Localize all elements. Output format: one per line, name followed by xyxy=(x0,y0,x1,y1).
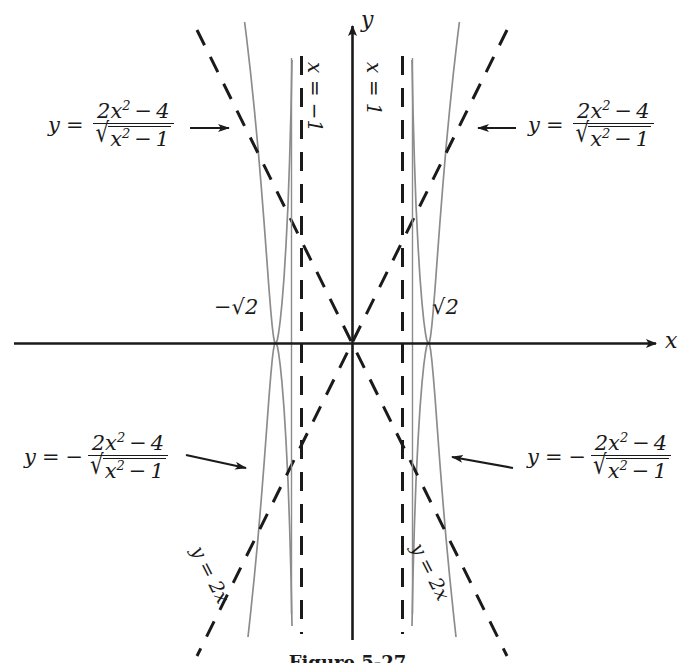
numerator-operator: − xyxy=(611,99,637,123)
denominator-term-a: x xyxy=(110,127,122,151)
denominator-operator: − xyxy=(130,127,156,151)
equation-fraction: 2x2−4 √x2−1 xyxy=(86,432,170,482)
radical-sign-icon: √ xyxy=(90,452,104,480)
fraction-denominator: √x2−1 xyxy=(589,456,673,482)
numerator-exponent: 2 xyxy=(620,430,628,445)
denominator-term-b: 1 xyxy=(156,127,169,151)
numerator-operator: − xyxy=(131,99,157,123)
radical-sign-icon: √ xyxy=(95,120,109,148)
curve-lower-left xyxy=(248,343,292,637)
equation-leading-minus: − xyxy=(568,446,587,468)
sqrt-group: √x2−1 xyxy=(593,458,669,482)
sqrt-group: √x2−1 xyxy=(90,458,166,482)
equation-upper-right: y = 2x2−4 √x2−1 xyxy=(528,100,657,150)
equation-lhs: y xyxy=(24,446,36,468)
equation-lower-right: y = − 2x2−4 √x2−1 xyxy=(527,432,675,482)
pointer-lower-left xyxy=(186,455,246,468)
equation-fraction: 2x2−4 √x2−1 xyxy=(589,432,673,482)
radicand: x2−1 xyxy=(606,458,669,482)
radicand: x2−1 xyxy=(108,126,171,150)
tick-label-pos-sqrt2: √2 xyxy=(432,296,459,318)
numerator-operator: − xyxy=(628,431,654,455)
equation-equals: = xyxy=(539,446,569,468)
denominator-term-a: x xyxy=(590,127,602,151)
numerator-exponent: 2 xyxy=(122,98,130,113)
label-asymptote-x-pos1: x = 1 xyxy=(363,62,384,115)
denominator-exponent: 2 xyxy=(122,126,130,141)
radical-sign-icon: √ xyxy=(575,120,589,148)
pointer-lower-right xyxy=(452,457,513,468)
fraction-denominator: √x2−1 xyxy=(91,124,175,150)
numerator-term-b: 4 xyxy=(151,431,164,455)
equation-leading-minus: − xyxy=(65,446,84,468)
equation-equals: = xyxy=(60,114,90,136)
denominator-term-b: 1 xyxy=(653,459,666,483)
fraction-denominator: √x2−1 xyxy=(86,456,170,482)
numerator-operator: − xyxy=(125,431,151,455)
denominator-term-b: 1 xyxy=(150,459,163,483)
x-axis-label: x xyxy=(665,329,677,352)
radicand: x2−1 xyxy=(588,126,651,150)
numerator-exponent: 2 xyxy=(602,98,610,113)
label-asymptote-x-neg1: x = −1 xyxy=(304,62,325,132)
numerator-term-b: 4 xyxy=(156,99,169,123)
sqrt-group: √x2−1 xyxy=(95,126,171,150)
denominator-term-a: x xyxy=(105,459,117,483)
y-axis-label: y xyxy=(361,8,373,31)
denominator-exponent: 2 xyxy=(602,126,610,141)
equation-lower-left: y = − 2x2−4 √x2−1 xyxy=(24,432,172,482)
denominator-term-a: x xyxy=(608,459,620,483)
equation-lhs: y xyxy=(528,114,540,136)
equation-fraction: 2x2−4 √x2−1 xyxy=(91,100,175,150)
radical-sign-icon: √ xyxy=(593,452,607,480)
radicand: x2−1 xyxy=(103,458,166,482)
numerator-term-b: 4 xyxy=(636,99,649,123)
denominator-exponent: 2 xyxy=(117,458,125,473)
numerator-term-b: 4 xyxy=(654,431,667,455)
sqrt-group: √x2−1 xyxy=(575,126,651,150)
equation-lhs: y xyxy=(48,114,60,136)
equation-equals: = xyxy=(36,446,66,468)
numerator-exponent: 2 xyxy=(117,430,125,445)
equation-fraction: 2x2−4 √x2−1 xyxy=(571,100,655,150)
fraction-denominator: √x2−1 xyxy=(571,124,655,150)
equation-lhs: y xyxy=(527,446,539,468)
denominator-operator: − xyxy=(628,459,654,483)
denominator-exponent: 2 xyxy=(620,458,628,473)
figure-caption: Figure 5-27 xyxy=(0,652,695,663)
denominator-term-b: 1 xyxy=(636,127,649,151)
figure-container: y x −√2 √2 x = −1 x = 1 y = 2x y = 2x y … xyxy=(0,0,695,663)
tick-label-neg-sqrt2: −√2 xyxy=(214,296,258,318)
denominator-operator: − xyxy=(125,459,151,483)
denominator-operator: − xyxy=(610,127,636,151)
equation-upper-left: y = 2x2−4 √x2−1 xyxy=(48,100,177,150)
equation-equals: = xyxy=(540,114,570,136)
